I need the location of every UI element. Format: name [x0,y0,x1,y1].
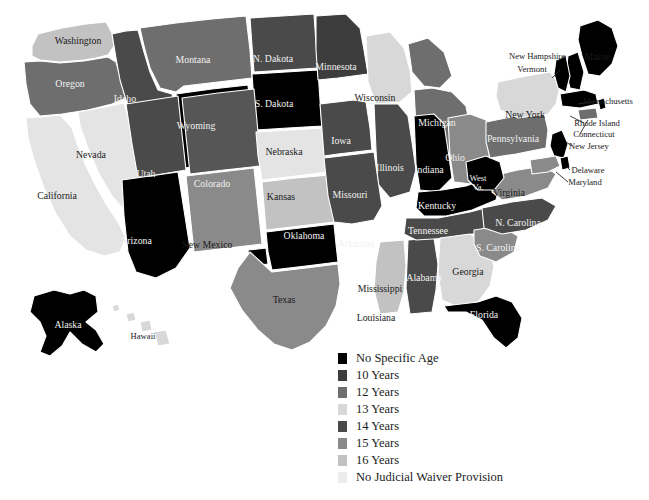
legend-label: No Specific Age [356,352,439,365]
legend-swatch [338,404,347,415]
state-mt: Montana — 12 Years [140,16,252,92]
state-hi: Hawaii — No Judicial Waiver Provision [112,304,170,346]
leader-line-7 [556,172,568,182]
state-ma: Massachusetts — No Specific Age [560,90,598,108]
state-nm: New Mexico — 15 Years [186,168,262,252]
state-az: Arizona — No Specific Age [122,172,190,278]
legend-row: 16 Years [338,452,503,469]
state-ms: Mississippi — 13 Years [374,240,406,314]
legend-swatch [338,387,347,398]
us-choropleth-map: Washington — 16 YearsOregon — 12 YearsId… [0,0,649,500]
state-ne: Nebraska — No Judicial Waiver Provision [256,128,328,180]
state-ks: Kansas — 10 Years [262,175,334,230]
state-ri: Rhode Island — No Specific Age [598,98,606,110]
legend-row: 12 Years [338,384,503,401]
state-me: Maine — No Specific Age [578,20,618,76]
legend-label: 16 Years [356,454,399,467]
legend-label: 12 Years [356,386,399,399]
state-al: Alabama — 14 Years [406,238,438,314]
legend-row: No Judicial Waiver Provision [338,469,503,486]
legend-swatch [338,472,347,483]
legend-swatch [338,370,347,381]
legend-label: No Judicial Waiver Provision [356,471,503,484]
legend: No Specific Age10 Years12 Years13 Years1… [338,350,503,486]
legend-swatch [338,421,347,432]
state-nd: N. Dakota — 14 Years [250,14,318,72]
state-ak: Alaska — No Specific Age [30,290,104,356]
legend-row: No Specific Age [338,350,503,367]
state-nc: N. Carolina — 14 Years [482,198,556,234]
legend-row: 15 Years [338,435,503,452]
state-wa: Washington — 16 Years [32,22,114,62]
us-map-svg: Washington — 16 YearsOregon — 12 YearsId… [0,0,649,500]
legend-label: 14 Years [356,420,399,433]
state-pa: Pennsylvania — 14 Years [486,112,548,158]
legend-label: 13 Years [356,403,399,416]
legend-swatch [338,455,347,466]
state-il: Illinois — 13 Years [374,104,416,198]
map-figure: Washington — 16 YearsOregon — 12 YearsId… [0,0,649,500]
legend-row: 13 Years [338,401,503,418]
legend-label: 15 Years [356,437,399,450]
state-nj: New Jersey — No Specific Age [550,130,568,158]
legend-row: 14 Years [338,418,503,435]
state-md: Maryland — 15 Years [530,156,560,174]
state-mo: Missouri — 12 Years [324,152,382,224]
state-ct: Connecticut — 14 Years [578,108,598,120]
legend-swatch [338,353,347,364]
legend-label: 10 Years [356,369,399,382]
states-layer: Washington — 16 YearsOregon — 12 YearsId… [24,14,618,356]
state-ia: Iowa — 14 Years [320,100,372,156]
state-sd: S. Dakota — No Specific Age [252,70,322,130]
legend-swatch [338,438,347,449]
legend-row: 10 Years [338,367,503,384]
state-mn: Minnesota — 14 Years [316,14,368,80]
state-co: Colorado — 12 Years [182,89,260,174]
state-wi: Wisconsin — No Judicial Waiver Provision [366,32,412,104]
